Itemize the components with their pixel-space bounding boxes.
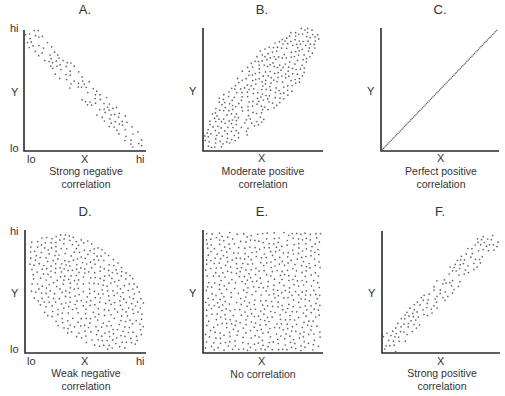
data-point (493, 249, 495, 251)
data-point (426, 307, 428, 309)
data-point (436, 295, 438, 297)
data-point (419, 304, 421, 306)
data-point (413, 324, 415, 326)
data-point (461, 255, 463, 257)
data-point (486, 245, 488, 247)
data-point (487, 238, 489, 240)
data-point (477, 241, 479, 243)
data-point (426, 303, 428, 305)
data-point (423, 294, 425, 296)
data-point (467, 248, 469, 250)
data-point (404, 314, 406, 316)
data-point (412, 331, 414, 333)
data-point (468, 272, 470, 274)
data-point (479, 259, 481, 261)
data-point (453, 267, 455, 269)
data-point (388, 339, 390, 341)
data-point (444, 299, 446, 301)
data-point (413, 316, 415, 318)
data-point (492, 235, 494, 237)
data-point (404, 318, 406, 320)
data-point (407, 326, 409, 328)
data-point (453, 289, 455, 291)
data-point (481, 256, 483, 258)
data-point (478, 250, 480, 252)
data-point (480, 244, 482, 246)
data-point (467, 265, 469, 267)
data-point (394, 336, 396, 338)
data-point (416, 327, 418, 329)
data-point (403, 331, 405, 333)
data-point (477, 238, 479, 240)
data-point (413, 309, 415, 311)
data-point (428, 293, 430, 295)
data-point (390, 335, 392, 337)
data-point (470, 256, 472, 258)
data-point (408, 315, 410, 317)
data-point (395, 351, 397, 353)
data-point (406, 334, 408, 336)
data-point (445, 282, 447, 284)
data-point (442, 297, 444, 299)
data-point (439, 289, 441, 291)
data-point (455, 270, 457, 272)
data-point (476, 266, 478, 268)
data-point (397, 323, 399, 325)
y-axis-label: Y (368, 287, 375, 299)
data-point (452, 280, 454, 282)
data-point (395, 327, 397, 329)
data-point (400, 326, 402, 328)
data-point (458, 274, 460, 276)
data-point (465, 253, 467, 255)
data-point (472, 253, 474, 255)
data-point (463, 263, 465, 265)
data-point (447, 296, 449, 298)
data-point (419, 324, 421, 326)
data-point (464, 259, 466, 261)
data-point (417, 316, 419, 318)
data-point (433, 289, 435, 291)
data-point (398, 340, 400, 342)
data-point (422, 309, 424, 311)
data-point (493, 244, 495, 246)
data-point (473, 262, 475, 264)
data-point (459, 268, 461, 270)
data-point (386, 332, 388, 334)
data-point (403, 323, 405, 325)
data-point (395, 333, 397, 335)
data-point (442, 283, 444, 285)
scatter-plot-f (0, 0, 505, 396)
data-point (488, 250, 490, 252)
data-point (409, 307, 411, 309)
data-point (459, 281, 461, 283)
data-point (413, 304, 415, 306)
data-point (384, 348, 386, 350)
data-point (444, 291, 446, 293)
data-point (475, 259, 477, 261)
data-point (451, 285, 453, 287)
data-point (422, 299, 424, 301)
data-point (431, 312, 433, 314)
data-point (410, 320, 412, 322)
data-point (408, 323, 410, 325)
data-point (452, 270, 454, 272)
data-point (423, 314, 425, 316)
data-point (459, 264, 461, 266)
data-point (463, 273, 465, 275)
data-point (481, 239, 483, 241)
data-point (400, 331, 402, 333)
data-point (471, 248, 473, 250)
data-point (491, 239, 493, 241)
data-point (420, 297, 422, 299)
data-point (482, 249, 484, 251)
data-point (496, 246, 498, 248)
data-point (473, 269, 475, 271)
data-point (406, 311, 408, 313)
data-point (417, 301, 419, 303)
data-point (400, 318, 402, 320)
data-point (430, 308, 432, 310)
data-point (449, 282, 451, 284)
data-point (389, 345, 391, 347)
data-point (393, 344, 395, 346)
data-point (436, 301, 438, 303)
